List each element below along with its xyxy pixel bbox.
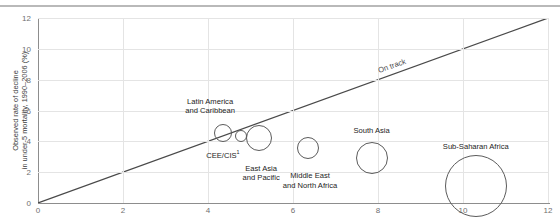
x-axis-tick-label: 2 [121,206,125,215]
gridline-horizontal [38,18,548,19]
y-axis-label-text: Observed rate of declinein under-5 morta… [12,52,29,169]
chart-figure: 024681012024681012On trackLatin America … [0,0,560,221]
plot-area: 024681012024681012On trackLatin America … [38,18,548,203]
x-axis-tick-label: 12 [544,206,553,215]
y-axis-label-line: in under-5 mortality, 1990–2006 (%) [21,52,30,169]
x-axis-tick-label: 6 [291,206,295,215]
top-divider-rule [0,5,560,7]
bubble-label-east-asia-and-pacific: East Asia and Pacific [243,164,280,182]
bubble-sub-saharan-africa[interactable] [445,155,507,217]
bubble-label-latin-america-and-caribbean: Latin America and Caribbean [185,97,235,115]
bubble-middle-east-and-north-africa[interactable] [297,137,319,159]
bubble-label-cee-cis: CEE/CIS1 [206,151,239,160]
bubble-label-sub-saharan-africa: Sub-Saharan Africa [443,142,509,151]
bubble-south-asia[interactable] [356,142,388,174]
x-axis-tick-label: 4 [206,206,210,215]
y-axis-label: Observed rate of declinein under-5 morta… [10,18,32,203]
gridline-horizontal [38,111,548,112]
bubble-label-south-asia: South Asia [353,126,389,135]
gridline-horizontal [38,80,548,81]
bubble-east-asia-and-pacific[interactable] [246,125,272,151]
x-axis-tick-label: 8 [376,206,380,215]
bubble-label-middle-east-and-north-africa: Middle East and North Africa [283,171,337,189]
x-axis-tick-label: 0 [36,206,40,215]
on-track-label: On track [377,57,407,75]
gridline-horizontal [38,49,548,50]
gridline-vertical [548,18,549,203]
footnote-marker: 1 [237,150,240,156]
bubble-latin-america-and-caribbean[interactable] [214,124,232,142]
